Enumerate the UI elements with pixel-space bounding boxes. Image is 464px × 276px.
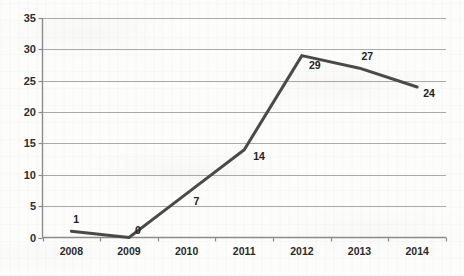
x-tick-label-2012: 2012 xyxy=(273,246,331,257)
data-label-2013: 27 xyxy=(362,51,374,62)
data-label-2012: 29 xyxy=(309,60,321,71)
axis-lines xyxy=(42,18,446,238)
plot-area xyxy=(0,0,464,276)
x-tick-label-2011: 2011 xyxy=(215,246,273,257)
data-label-2011: 14 xyxy=(253,151,265,162)
x-tick-label-2009: 2009 xyxy=(100,246,158,257)
x-tick-label-2014: 2014 xyxy=(388,246,446,257)
x-tick-label-2010: 2010 xyxy=(158,246,216,257)
x-tick-label-2013: 2013 xyxy=(331,246,389,257)
x-tick-label-2008: 2008 xyxy=(43,246,101,257)
data-label-2008: 1 xyxy=(73,214,79,225)
data-label-2009: 0 xyxy=(135,225,141,236)
data-label-2014: 24 xyxy=(423,88,435,99)
line-chart: 05101520253035 2008200920102011201220132… xyxy=(0,0,464,276)
data-label-2010: 7 xyxy=(194,196,200,207)
gridlines xyxy=(43,19,447,207)
series-line xyxy=(71,56,417,238)
